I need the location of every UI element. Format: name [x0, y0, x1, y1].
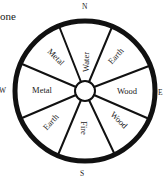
compass-west-label: W	[0, 86, 7, 95]
compass-south-label: S	[80, 169, 84, 178]
segment-label-east: Wood	[117, 86, 138, 96]
segment-label-southeast: Wood	[108, 109, 130, 131]
segment-label-south: Fire	[79, 121, 89, 135]
segment-label-north: Water	[81, 52, 91, 72]
five-elements-compass-diagram: N E S W Water Earth Wood Wood Fire Earth…	[0, 0, 164, 178]
segment-label-southwest: Earth	[41, 111, 61, 132]
segment-label-northwest: Metal	[46, 46, 68, 68]
segment-label-northeast: Earth	[106, 45, 126, 66]
center-hub	[75, 81, 95, 101]
segment-label-west: Metal	[32, 85, 52, 95]
compass-north-label: N	[82, 2, 88, 11]
compass-east-label: E	[158, 88, 163, 97]
